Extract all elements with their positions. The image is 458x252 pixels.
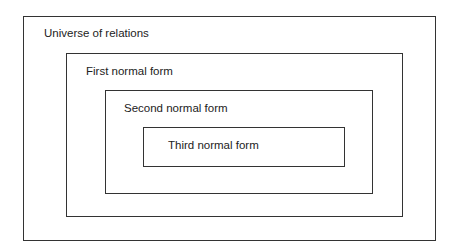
- first-normal-form-label: First normal form: [86, 65, 173, 77]
- universe-of-relations-label: Universe of relations: [44, 27, 149, 39]
- third-normal-form-label: Third normal form: [168, 139, 259, 151]
- second-normal-form-label: Second normal form: [124, 102, 228, 114]
